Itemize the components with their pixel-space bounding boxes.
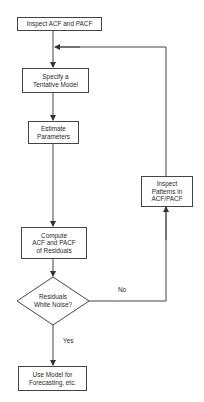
node-compute-residual-acf-pacf: Compute ACF and PACF of Residuals xyxy=(21,227,87,259)
node-estimate-parameters: Estimate Parameters xyxy=(28,121,79,144)
node-inspect-patterns: Inspect Patterns in ACF/PACF xyxy=(141,176,193,207)
node-use-model-forecasting: Use Model for Forecasting, etc. xyxy=(18,366,87,391)
edge-label-yes: Yes xyxy=(63,337,73,344)
edge-label-no: No xyxy=(118,286,126,293)
node-residuals-white-noise: Residuals White Noise? xyxy=(23,293,83,308)
node-inspect-acf-pacf: Inspect ACF and PACF xyxy=(17,17,102,31)
node-specify-tentative-model: Specify a Tentative Model xyxy=(22,68,89,93)
